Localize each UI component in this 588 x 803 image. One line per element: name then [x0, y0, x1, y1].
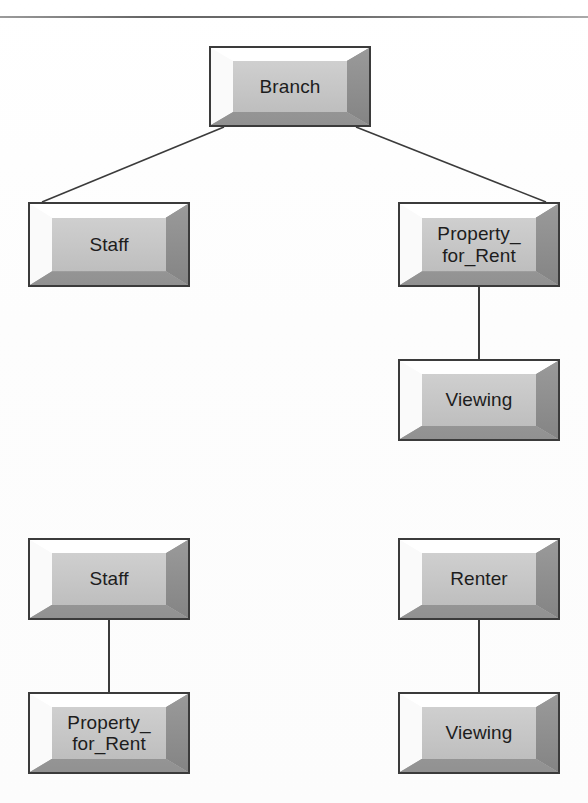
node-label: Staff: [89, 234, 128, 255]
node-label: Staff: [89, 568, 128, 589]
node-label: Viewing: [446, 722, 513, 743]
node-property-for-rent-bottom[interactable]: Property_ for_Rent: [28, 692, 190, 774]
node-face: Staff: [52, 553, 166, 605]
node-viewing-top[interactable]: Viewing: [398, 359, 560, 441]
node-label: Viewing: [446, 389, 513, 410]
node-label: Property_ for_Rent: [437, 223, 520, 266]
node-staff-top[interactable]: Staff: [28, 202, 190, 287]
edge-branch-to-staff: [42, 127, 224, 202]
node-face: Renter: [422, 553, 536, 605]
node-face: Branch: [233, 61, 347, 112]
node-face: Property_ for_Rent: [52, 707, 166, 759]
node-viewing-bottom[interactable]: Viewing: [398, 692, 560, 774]
node-property-for-rent-top[interactable]: Property_ for_Rent: [398, 202, 560, 287]
node-face: Staff: [52, 218, 166, 271]
node-face: Viewing: [422, 707, 536, 759]
edge-branch-to-property: [356, 127, 546, 202]
node-label: Renter: [450, 568, 508, 589]
node-label: Branch: [260, 76, 321, 97]
node-staff-bottom[interactable]: Staff: [28, 538, 190, 620]
node-branch[interactable]: Branch: [209, 46, 371, 127]
diagram-page: Branch Staff Property_ for_Rent: [0, 0, 588, 803]
node-face: Viewing: [422, 374, 536, 426]
node-face: Property_ for_Rent: [422, 218, 536, 271]
node-label: Property_ for_Rent: [67, 712, 150, 755]
node-renter[interactable]: Renter: [398, 538, 560, 620]
